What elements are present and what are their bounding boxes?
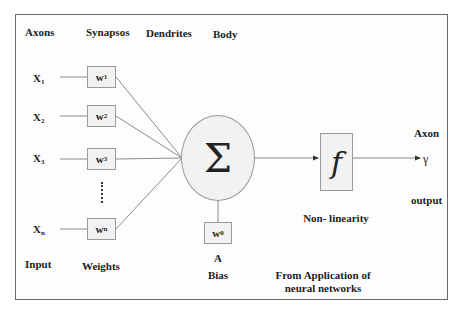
weight-box-w1: w1 — [87, 66, 116, 88]
weights-caption: Weights — [82, 261, 120, 272]
weight-box-wn: wn — [87, 218, 116, 240]
input-x2: X2 — [33, 112, 44, 125]
ellipsis-dots — [101, 182, 105, 203]
output-caption: output — [411, 195, 442, 206]
function-f-icon: f — [331, 145, 342, 180]
nonlinearity-caption: Non- linearity — [303, 213, 369, 224]
source-line-2: neural networks — [285, 283, 362, 294]
synapses-label: Synapsos — [86, 27, 129, 38]
axon-output-label: Axon — [414, 128, 439, 139]
input-caption: Input — [25, 259, 51, 270]
weight-box-w3: w3 — [87, 148, 116, 170]
bias-weight-box: w0 — [204, 222, 232, 244]
bias-node-label: A — [214, 253, 222, 264]
input-x1: X1 — [33, 73, 44, 86]
activation-function-box: f — [320, 133, 353, 191]
sigma-icon: Σ — [204, 135, 232, 181]
dendrites-label: Dendrites — [146, 28, 192, 39]
output-symbol: γ — [423, 153, 428, 165]
bias-caption: Bias — [208, 270, 228, 281]
input-xn: Xn — [33, 224, 45, 237]
body-label: Body — [213, 29, 237, 40]
weight-box-w2: w2 — [87, 105, 116, 127]
input-x3: X3 — [33, 153, 44, 166]
axons-label: Axons — [25, 27, 54, 38]
summation-node: Σ — [181, 115, 255, 201]
source-line-1: From Application of — [275, 270, 370, 281]
